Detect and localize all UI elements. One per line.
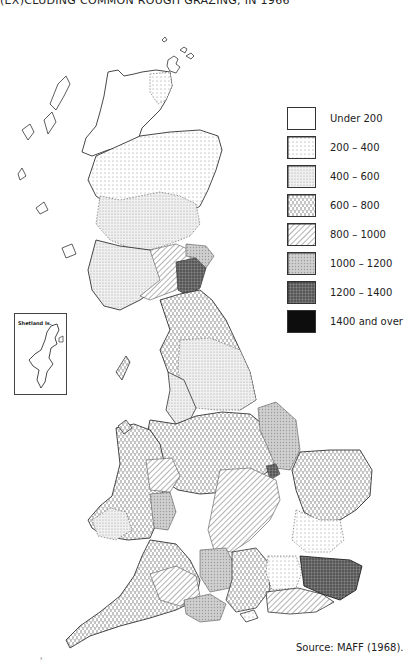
legend-swatch [287,136,316,159]
legend-swatch [287,310,316,333]
scan-mark: ᶾ [40,655,42,662]
legend-swatch [287,252,316,275]
legend-label: 1000 – 1200 [330,258,392,269]
legend-label: 1200 – 1400 [330,287,392,298]
source-citation: Source: MAFF (1968). [296,642,403,653]
legend-item-600-800: 600 – 800 [287,194,380,217]
shetland-islands-shape [15,314,68,396]
legend-label: 200 – 400 [330,142,380,153]
shetland-inset: Shetland Is. [14,313,67,395]
legend-swatch [287,107,316,130]
legend-swatch [287,223,316,246]
legend-swatch [287,194,316,217]
legend-label: 600 – 800 [330,200,380,211]
region-east-anglia [292,450,372,522]
isle-of-wight [240,610,258,622]
region-central-hatch [208,468,280,552]
legend-swatch [287,281,316,304]
legend-item-800-1000: 800 – 1000 [287,223,386,246]
legend-item-400-600: 400 – 600 [287,165,380,188]
legend-item-1200-1400: 1200 – 1400 [287,281,392,304]
legend-label: 800 – 1000 [330,229,386,240]
region-central-scotland [96,192,200,250]
legend-label: 400 – 600 [330,171,380,182]
region-surrey [266,556,302,590]
legend-item-200-400: 200 – 400 [287,136,380,159]
orkney-islands [162,37,194,73]
legend-item-under-200: Under 200 [287,107,383,130]
region-wales-grey [150,492,176,530]
legend-label: Under 200 [330,113,383,124]
legend-label: 1400 and over [330,316,403,327]
legend-item-1400-over: 1400 and over [287,310,403,333]
western-isles [18,76,76,258]
isle-of-man [116,356,130,380]
legend-item-1000-1200: 1000 – 1200 [287,252,392,275]
legend-swatch [287,165,316,188]
region-hampshire [226,548,270,612]
